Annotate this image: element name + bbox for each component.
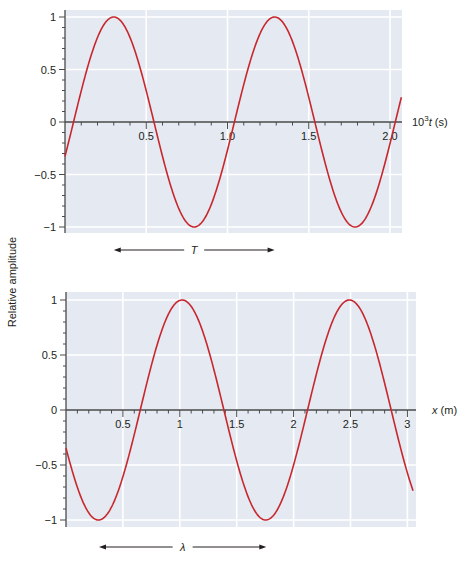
x-axis-label: x (m)	[431, 404, 457, 416]
x-tick-label: 1.5	[229, 418, 244, 430]
x-tick-label: 1	[177, 418, 183, 430]
wavelength-annotation: λ	[99, 541, 266, 553]
x-tick-label: 3	[404, 418, 410, 430]
time-domain-plot: 10.50−0.5−10.51.01.52.0103t (s)T	[34, 10, 447, 256]
arrowhead-left-icon	[114, 248, 121, 253]
arrowhead-left-icon	[99, 545, 106, 550]
y-tick-label: −0.5	[34, 169, 56, 181]
x-tick-label: 1.5	[301, 130, 316, 142]
y-tick-label: 0.5	[41, 64, 56, 76]
x-tick-label: 2.5	[343, 418, 358, 430]
arrowhead-right-icon	[268, 248, 275, 253]
x-tick-label: 0.5	[115, 418, 130, 430]
y-tick-label: −1	[43, 221, 56, 233]
y-axis-label: Relative amplitude	[6, 237, 18, 328]
y-tick-label: 0	[50, 116, 56, 128]
annotation-label: λ	[179, 541, 185, 553]
x-tick-label: 0.5	[139, 130, 154, 142]
y-tick-label: −0.5	[35, 459, 57, 471]
figure: 10.50−0.5−10.51.01.52.0103t (s)T 10.50−0…	[0, 0, 470, 564]
y-tick-label: 1	[51, 294, 57, 306]
space-domain-plot: 10.50−0.5−10.511.522.53x (m)λ	[35, 292, 457, 553]
y-tick-label: −1	[44, 514, 57, 526]
annotation-label: T	[191, 244, 199, 256]
arrowhead-right-icon	[259, 545, 266, 550]
x-tick-label: 2	[291, 418, 297, 430]
x-tick-label: 1.0	[220, 130, 235, 142]
y-tick-label: 0.5	[42, 349, 57, 361]
period-annotation: T	[114, 244, 275, 256]
chart-svg: 10.50−0.5−10.51.01.52.0103t (s)T 10.50−0…	[0, 0, 470, 564]
x-axis-label: 103t (s)	[412, 114, 448, 128]
y-tick-label: 0	[51, 404, 57, 416]
y-tick-label: 1	[50, 11, 56, 23]
